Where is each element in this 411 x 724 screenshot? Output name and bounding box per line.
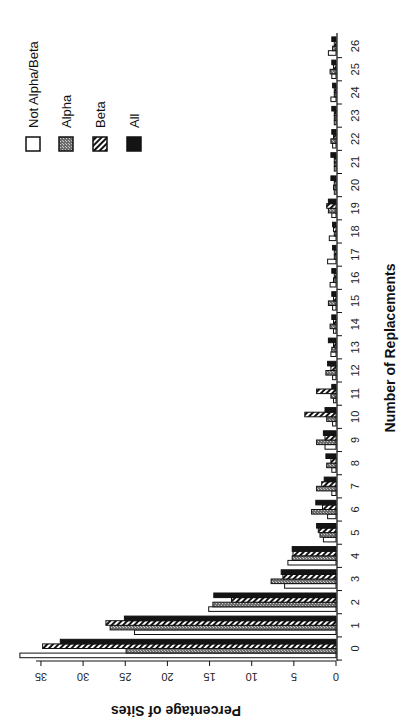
bar-white-25 [332,74,336,79]
bar-gray-6 [312,510,336,515]
bar-hatched-1 [106,621,336,626]
bar-hatched-14 [334,320,337,325]
category-tick-label: 22 [349,133,361,145]
bar-hatched-7 [322,482,336,487]
bar-hatched-17 [334,250,336,255]
bar-hatched-22 [334,134,337,139]
value-tick-label: 35 [35,671,47,683]
bar-hatched-5 [318,528,336,533]
bar-hatched-4 [293,551,336,556]
bar-white-26 [328,51,336,56]
bar-gray-1 [110,625,336,630]
bar-black-26 [332,37,336,42]
legend-swatch-beta [93,137,107,151]
category-tick-label: 5 [349,530,361,536]
bar-black-19 [328,199,336,204]
bar-black-10 [325,408,336,413]
bar-gray-23 [334,116,336,121]
category-tick-label: 0 [349,645,361,651]
category-tick-label: 26 [349,40,361,52]
bar-black-15 [332,292,336,297]
bar-white-23 [334,120,336,125]
bar-chart: 05101520253035 0123456789101112131415161… [0,0,411,724]
legend-label-all: All [127,113,142,128]
bar-white-1 [135,630,337,635]
value-tick-label: 15 [203,671,215,683]
bar-white-16 [330,282,336,287]
bar-hatched-2 [232,598,337,603]
category-tick-label: 18 [349,225,361,237]
category-tick-label: 19 [349,202,361,214]
bar-gray-7 [317,486,336,491]
bar-black-16 [332,269,336,274]
value-tick-label: 5 [291,671,297,683]
bar-white-17 [328,259,336,264]
bar-white-11 [334,398,337,403]
bar-white-22 [333,143,336,148]
bar-white-10 [333,421,336,426]
bar-gray-11 [331,394,336,399]
y-axis-title: Percentage of Sites [111,703,241,719]
category-tick-label: 20 [349,179,361,191]
category-tick-label: 4 [349,553,361,559]
bar-gray-12 [326,371,336,376]
value-tick-label: 25 [119,671,131,683]
bar-gray-14 [330,324,336,329]
bar-hatched-12 [331,366,336,371]
bar-white-4 [288,560,336,565]
bar-white-15 [333,306,336,311]
plot-area [20,37,336,658]
bar-gray-26 [333,46,336,51]
category-tick-label: 25 [349,63,361,75]
bar-gray-9 [317,440,336,445]
bar-white-20 [334,190,336,195]
bar-hatched-26 [334,42,336,47]
bar-hatched-21 [334,157,336,162]
category-tick-label: 23 [349,109,361,121]
bar-black-5 [317,524,336,529]
bar-hatched-19 [327,204,336,209]
bar-black-6 [316,500,336,505]
bar-black-17 [333,245,336,250]
category-tick-label: 9 [349,437,361,443]
legend-swatch-not-alpha-beta [26,137,40,151]
bar-black-3 [281,570,336,575]
bar-hatched-11 [317,389,336,394]
bar-black-14 [332,315,336,320]
bar-hatched-0 [43,644,336,649]
bar-black-23 [332,106,336,111]
bar-white-0 [20,653,336,658]
bar-gray-21 [334,162,336,167]
category-tick-label: 3 [349,576,361,582]
bar-gray-15 [328,301,336,306]
bar-black-13 [328,338,336,343]
bar-white-8 [332,468,336,473]
category-tick-label: 6 [349,506,361,512]
legend-swatch-all [127,137,141,151]
value-tick-label: 20 [161,671,173,683]
bar-gray-16 [334,278,337,283]
bar-hatched-13 [334,343,337,348]
bar-hatched-10 [305,412,336,417]
bar-gray-25 [330,69,336,74]
category-tick-label: 12 [349,364,361,376]
value-tick-label: 30 [77,671,89,683]
bar-gray-4 [292,556,336,561]
bar-white-13 [331,352,336,357]
value-tick-label: 0 [333,671,339,683]
bar-gray-17 [334,255,336,260]
legend: Not Alpha/Beta Alpha Beta All [26,41,142,151]
legend-swatch-alpha [59,137,73,151]
category-tick-label: 11 [349,388,361,399]
category-tick-label: 16 [349,272,361,284]
category-tick-label: 2 [349,599,361,605]
bar-gray-13 [332,347,336,352]
bar-gray-22 [331,139,336,144]
category-tick-label: 8 [349,460,361,466]
bar-gray-10 [327,417,336,422]
value-axis-ticks: 05101520253035 [35,661,339,683]
bar-hatched-25 [334,65,337,70]
category-tick-label: 14 [349,318,361,330]
category-axis-ticks: 0123456789101112131415161718192021222324… [337,40,361,660]
category-tick-label: 13 [349,341,361,353]
